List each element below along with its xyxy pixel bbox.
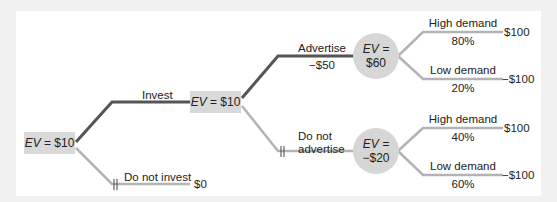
adv-high-label: High demand xyxy=(423,17,503,30)
noadv-low-prob: 60% xyxy=(423,178,503,191)
noadv-low-payoff: −$100 xyxy=(502,169,534,182)
do-not-invest-payoff: $0 xyxy=(194,178,207,191)
advertise-cost: −$50 xyxy=(292,59,352,72)
noadv-low-label: Low demand xyxy=(423,160,503,173)
adv-high-prob: 80% xyxy=(423,35,503,48)
noadv-high-payoff: $100 xyxy=(504,122,530,135)
invest-label: Invest xyxy=(142,89,173,102)
do-not-invest-label: Do not invest xyxy=(124,171,191,184)
root-decision-node: EV = $10 xyxy=(24,132,75,154)
noadv-high-label: High demand xyxy=(423,113,503,126)
adv-low-label: Low demand xyxy=(423,64,503,77)
adv-low-payoff: −$100 xyxy=(502,73,534,86)
branch-invest xyxy=(76,102,190,142)
no-advertise-chance-node: EV = −$20 xyxy=(353,128,399,174)
adv-high-payoff: $100 xyxy=(504,26,530,39)
do-not-advertise-label: Do not advertise xyxy=(298,130,345,156)
invest-decision-node: EV = $10 xyxy=(190,91,241,113)
noadv-high-prob: 40% xyxy=(423,131,503,144)
advertise-chance-node: EV = $60 xyxy=(353,33,399,79)
adv-low-prob: 20% xyxy=(423,82,503,95)
advertise-label: Advertise xyxy=(292,42,352,55)
